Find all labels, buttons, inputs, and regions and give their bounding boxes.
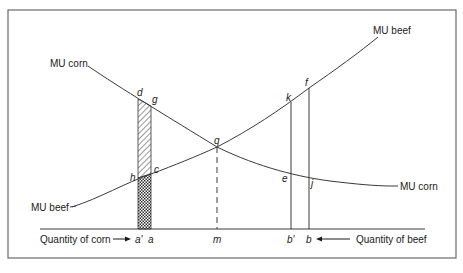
- tick-a-prime: a': [135, 234, 144, 245]
- mu-corn-right-label: MU corn: [400, 181, 438, 192]
- beef-arrow-icon: [316, 237, 322, 242]
- point-h: h: [130, 172, 136, 183]
- mu-corn-top-label: MU corn: [50, 58, 88, 69]
- point-f: f: [305, 77, 309, 88]
- point-g: g: [152, 94, 158, 105]
- tick-b-prime: b': [287, 234, 296, 245]
- corn-arrow-icon: [125, 237, 131, 242]
- tick-b: b: [306, 234, 312, 245]
- point-j: j: [309, 178, 314, 189]
- point-d: d: [137, 87, 143, 98]
- mu-beef-left-label: MU beef: [31, 202, 69, 213]
- quantity-of-beef-label: Quantity of beef: [356, 234, 427, 245]
- marginal-utility-diagram: MU corn MU corn MU beef MU beef Quantity…: [0, 0, 463, 273]
- mu-corn-curve: [88, 66, 392, 186]
- tick-m: m: [213, 234, 221, 245]
- mu-beef-top-label: MU beef: [373, 25, 411, 36]
- hatched-area: [138, 99, 151, 178]
- point-q: q: [214, 135, 220, 146]
- quantity-of-corn-label: Quantity of corn: [40, 234, 111, 245]
- mu-beef-left-leader: [70, 206, 76, 207]
- point-c: c: [154, 164, 159, 175]
- diagram-frame: [8, 10, 456, 258]
- tick-a: a: [148, 234, 154, 245]
- point-e: e: [282, 173, 288, 184]
- crosshatched-area: [138, 174, 151, 229]
